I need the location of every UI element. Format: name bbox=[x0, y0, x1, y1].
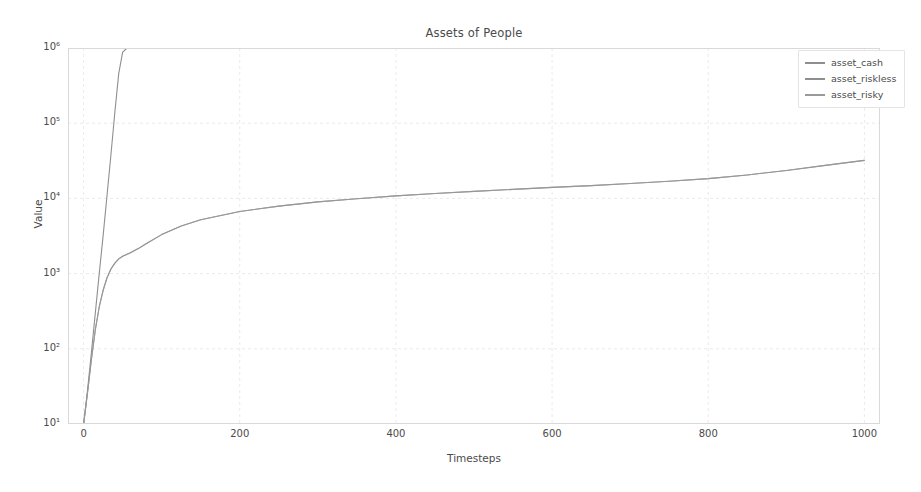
x-tick-label: 600 bbox=[543, 428, 562, 439]
legend-item[interactable]: asset_cash bbox=[805, 56, 896, 69]
plot-canvas bbox=[68, 48, 880, 424]
plot-background bbox=[68, 48, 880, 424]
legend-item-label: asset_cash bbox=[831, 57, 883, 68]
legend-line-swatch bbox=[805, 94, 825, 96]
x-tick-label: 200 bbox=[230, 428, 249, 439]
legend-line-swatch bbox=[805, 62, 825, 64]
legend-item-label: asset_risky bbox=[831, 89, 883, 100]
y-tick-label: 10⁶ bbox=[0, 41, 60, 52]
y-axis-label: Value bbox=[32, 200, 44, 229]
x-tick-label: 0 bbox=[80, 428, 86, 439]
y-tick-label: 10⁴ bbox=[0, 191, 60, 202]
chart-title: Assets of People bbox=[68, 26, 880, 40]
y-tick-label: 10¹ bbox=[0, 417, 60, 428]
legend-item[interactable]: asset_riskless bbox=[805, 72, 896, 85]
y-tick-label: 10⁵ bbox=[0, 116, 60, 127]
legend-item-label: asset_riskless bbox=[831, 73, 896, 84]
plot-area: 10¹10²10³10⁴10⁵10⁶ 02004006008001000 Val… bbox=[68, 48, 880, 424]
legend-line-swatch bbox=[805, 78, 825, 80]
x-tick-label: 1000 bbox=[852, 428, 877, 439]
y-tick-label: 10² bbox=[0, 342, 60, 353]
chart-legend: asset_cashasset_risklessasset_risky bbox=[798, 50, 905, 108]
x-tick-label: 800 bbox=[699, 428, 718, 439]
chart-figure: Assets of People 10¹10²10³10⁴10⁵10⁶ 0200… bbox=[0, 0, 921, 492]
y-tick-label: 10³ bbox=[0, 267, 60, 278]
x-axis-label: Timesteps bbox=[68, 452, 880, 464]
legend-item[interactable]: asset_risky bbox=[805, 88, 896, 101]
x-tick-label: 400 bbox=[386, 428, 405, 439]
